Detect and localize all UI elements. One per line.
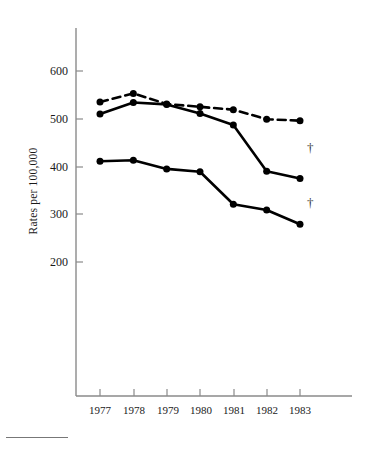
data-point <box>263 116 270 123</box>
x-tick-label-1980: 1980 <box>184 404 218 416</box>
data-point <box>97 99 104 106</box>
footnote-separator <box>6 437 68 438</box>
data-point <box>230 106 237 113</box>
data-point <box>230 201 237 208</box>
data-point <box>197 168 204 175</box>
data-point <box>97 110 104 117</box>
series-solid-lower-series <box>97 157 304 228</box>
y-tick-label-500: 500 <box>34 112 68 127</box>
y-tick-label-600: 600 <box>34 64 68 79</box>
data-point <box>230 121 237 128</box>
data-point <box>197 110 204 117</box>
dagger-annotation-upper: † <box>307 141 314 154</box>
series-layer <box>97 90 304 228</box>
y-axis-title: Rates per 100,000 <box>27 111 39 271</box>
x-tick-label-1982: 1982 <box>250 404 284 416</box>
data-point <box>130 99 137 106</box>
y-tick-label-300: 300 <box>34 207 68 222</box>
x-tick-label-1977: 1977 <box>83 404 117 416</box>
data-point <box>297 175 304 182</box>
data-point <box>297 117 304 124</box>
x-tick-label-1983: 1983 <box>283 404 317 416</box>
data-point <box>197 103 204 110</box>
data-point <box>130 157 137 164</box>
x-axis-ticks <box>100 389 300 396</box>
data-point <box>297 221 304 228</box>
data-point <box>163 101 170 108</box>
y-tick-label-200: 200 <box>34 255 68 270</box>
data-point <box>263 168 270 175</box>
dagger-annotation-lower: † <box>307 196 314 209</box>
x-tick-label-1978: 1978 <box>117 404 151 416</box>
data-point <box>97 158 104 165</box>
series-dashed-upper-series <box>97 90 304 124</box>
data-point <box>163 165 170 172</box>
chart-figure: Rates per 100,000 600 500 400 300 200 19… <box>0 0 370 450</box>
data-point <box>263 206 270 213</box>
x-tick-label-1981: 1981 <box>217 404 251 416</box>
data-point <box>130 90 137 97</box>
y-axis-ticks <box>76 71 83 262</box>
x-tick-label-1979: 1979 <box>151 404 185 416</box>
y-tick-label-400: 400 <box>34 160 68 175</box>
